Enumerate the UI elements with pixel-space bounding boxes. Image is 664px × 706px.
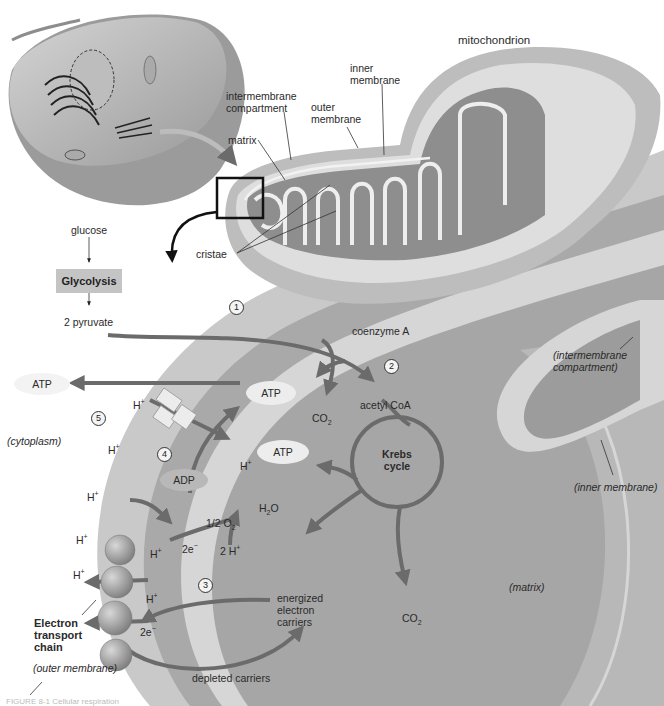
label-coenzyme-a: coenzyme A [352, 325, 409, 337]
label-electron-transport-chain: Electron transport chain [34, 617, 90, 653]
step-3-marker: 3 [198, 578, 213, 593]
h-ion-label: H+ [240, 457, 252, 472]
label-energized-electron-carriers: energized electron carriers [277, 592, 325, 628]
adp-oval: ADP [160, 469, 208, 491]
label-h2o: H2O [259, 502, 279, 519]
label-matrix: matrix [228, 134, 257, 146]
label-region-inner-membrane: (inner membrane) [574, 481, 657, 493]
figure-caption: FIGURE 8-1 Cellular respiration [6, 697, 119, 706]
label-region-matrix: (matrix) [509, 581, 545, 593]
h-ion-label: H+ [87, 488, 99, 503]
step-4-marker: 4 [157, 447, 172, 462]
label-region-outer-membrane: (outer membrane) [33, 662, 117, 674]
label-2e-upper: 2e− [182, 540, 198, 555]
label-co2-top: CO2 [312, 412, 332, 429]
atp-synthase-oval: ATP [246, 381, 296, 405]
label-cristae: cristae [196, 248, 227, 260]
label-intermembrane-compartment: intermembrane compartment [226, 90, 304, 114]
label-2h-plus: 2 H+ [220, 542, 240, 557]
label-2e-lower: 2e− [140, 623, 156, 638]
atp-cytoplasm-oval: ATP [14, 373, 70, 395]
step-1-marker: 1 [229, 300, 244, 315]
label-mitochondrion: mitochondrion [458, 34, 530, 46]
label-depleted-carriers: depleted carriers [192, 672, 270, 684]
label-krebs-cycle: Krebs cycle [374, 448, 420, 472]
label-acetyl-coa: acetyl CoA [360, 399, 411, 411]
label-region-intermembrane-compartment: (intermembrane compartment) [553, 349, 635, 373]
h-ion-label: H+ [150, 545, 162, 560]
atp-krebs-oval: ATP [257, 440, 309, 464]
label-half-o2: 1/2 O2 [206, 517, 236, 534]
glycolysis-box: Glycolysis [56, 269, 122, 293]
h-ion-label: H+ [108, 441, 120, 456]
step-2-marker: 2 [384, 359, 399, 374]
label-2-pyruvate: 2 pyruvate [64, 316, 113, 328]
label-inner-membrane: inner membrane [350, 62, 398, 86]
label-cytoplasm: (cytoplasm) [7, 435, 61, 447]
h-ion-label: H+ [146, 590, 158, 605]
h-ion-label: H+ [133, 396, 145, 411]
label-co2-bottom: CO2 [402, 612, 422, 629]
label-glucose: glucose [71, 224, 107, 236]
h-ion-label: H+ [76, 531, 88, 546]
label-outer-membrane: outer membrane [311, 101, 369, 125]
h-ion-label: H+ [73, 566, 85, 581]
whole-cell-illustration [9, 14, 245, 205]
step-5-marker: 5 [91, 411, 106, 426]
